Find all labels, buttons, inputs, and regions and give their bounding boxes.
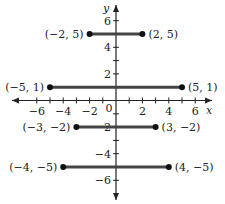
endpoint-dot-icon <box>47 84 53 90</box>
x-tick-label: −4 <box>55 105 71 118</box>
line-segment: (−2, 5)(2, 5) <box>45 28 178 41</box>
y-tick-label: 4 <box>104 41 111 54</box>
endpoint-label-right: (2, 5) <box>148 28 178 41</box>
endpoint-label-left: (−3, −2) <box>22 121 70 134</box>
line-segment: (−5, 1)(5, 1) <box>5 81 217 94</box>
coordinate-plane: −6−4−2246642−2−4−60xy (−2, 5)(2, 5)(−5, … <box>0 0 225 204</box>
endpoint-dot-icon <box>87 31 93 37</box>
x-axis-label: x <box>206 104 213 117</box>
endpoint-dot-icon <box>166 164 172 170</box>
y-tick-label: 2 <box>104 68 111 81</box>
endpoint-dot-icon <box>73 124 79 130</box>
endpoint-label-right: (4, −5) <box>175 161 214 174</box>
y-tick-label: 6 <box>104 15 111 28</box>
x-axis-arrow-left-icon <box>12 98 19 104</box>
endpoint-dot-icon <box>139 31 145 37</box>
y-tick-label: −4 <box>95 148 111 161</box>
x-tick-label: −6 <box>29 105 45 118</box>
x-tick-label: 2 <box>139 105 146 118</box>
y-axis-arrow-down-icon <box>113 193 119 200</box>
y-tick-label: −6 <box>95 174 111 187</box>
endpoint-dot-icon <box>60 164 66 170</box>
origin-label: 0 <box>106 102 113 115</box>
y-axis-arrow-up-icon <box>113 5 119 12</box>
line-segment: (−4, −5)(4, −5) <box>9 161 213 174</box>
endpoint-dot-icon <box>153 124 159 130</box>
x-tick-label: −2 <box>81 105 97 118</box>
y-axis-label: y <box>102 2 110 15</box>
endpoint-label-left: (−4, −5) <box>9 161 57 174</box>
endpoint-dot-icon <box>179 84 185 90</box>
endpoint-label-right: (3, −2) <box>162 121 201 134</box>
x-tick-label: 4 <box>165 105 172 118</box>
endpoint-label-left: (−2, 5) <box>45 28 84 41</box>
endpoint-label-right: (5, 1) <box>188 81 218 94</box>
endpoint-label-left: (−5, 1) <box>5 81 44 94</box>
x-tick-label: 6 <box>192 105 199 118</box>
line-segment: (−3, −2)(3, −2) <box>22 121 200 134</box>
